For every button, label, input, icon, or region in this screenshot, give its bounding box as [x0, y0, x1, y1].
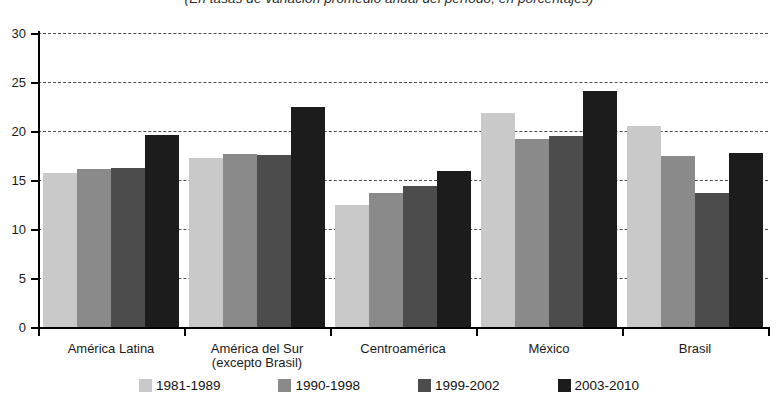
x-tick-mark-1: [184, 327, 186, 336]
bar-1-1: [223, 154, 257, 327]
bar-0-3: [145, 135, 179, 327]
x-tick-mark-5: [768, 327, 770, 336]
y-tick-mark-25: [31, 82, 40, 84]
y-axis-label-0: 0: [0, 320, 26, 335]
legend-item-3[interactable]: 2003-2010: [558, 378, 640, 393]
plot-area: [38, 33, 768, 327]
x-tick-mark-4: [622, 327, 624, 336]
legend-item-1[interactable]: 1990-1998: [278, 378, 360, 393]
category-label-line: América Latina: [68, 341, 155, 356]
category-label-2: Centroamérica: [360, 342, 445, 356]
legend-label: 1981-1989: [156, 378, 221, 393]
legend-label: 1990-1998: [295, 378, 360, 393]
y-axis-label-15: 15: [0, 173, 26, 188]
y-axis-label-25: 25: [0, 75, 26, 90]
y-axis-label-30: 30: [0, 26, 26, 41]
bar-1-2: [257, 155, 291, 327]
bar-3-3: [583, 91, 617, 327]
legend-label: 1999-2002: [435, 378, 500, 393]
legend-item-0[interactable]: 1981-1989: [139, 378, 221, 393]
bar-4-2: [695, 193, 729, 327]
y-axis-label-5: 5: [0, 271, 26, 286]
legend-item-2[interactable]: 1999-2002: [418, 378, 500, 393]
bar-3-2: [549, 136, 583, 327]
legend-label: 2003-2010: [575, 378, 640, 393]
bar-0-0: [43, 173, 77, 327]
y-tick-mark-20: [31, 131, 40, 133]
category-label-3: México: [528, 342, 569, 356]
legend-swatch-icon: [139, 379, 152, 392]
y-tick-mark-5: [31, 278, 40, 280]
bar-2-2: [403, 186, 437, 327]
bar-4-0: [627, 126, 661, 327]
x-tick-mark-0: [38, 327, 40, 336]
y-tick-mark-15: [31, 180, 40, 182]
bar-2-0: [335, 205, 369, 327]
bar-1-3: [291, 107, 325, 327]
bar-2-3: [437, 171, 471, 327]
legend-swatch-icon: [418, 379, 431, 392]
bars-layer: [38, 33, 768, 327]
chart-subtitle: (En tasas de variación promedio anual de…: [0, 0, 778, 6]
x-tick-mark-3: [476, 327, 478, 336]
category-label-line: Centroamérica: [360, 341, 445, 356]
chart-legend: 1981-19891990-19981999-20022003-2010: [0, 378, 778, 393]
y-tick-mark-30: [31, 33, 40, 35]
category-label-0: América Latina: [68, 342, 155, 356]
y-axis-label-10: 10: [0, 222, 26, 237]
legend-swatch-icon: [558, 379, 571, 392]
bar-chart-figure: (En tasas de variación promedio anual de…: [0, 0, 778, 414]
x-axis-line: [38, 327, 769, 329]
category-label-4: Brasil: [679, 342, 712, 356]
category-label-line: América del Sur: [211, 341, 303, 356]
bar-3-0: [481, 113, 515, 327]
bar-4-1: [661, 156, 695, 327]
y-tick-mark-10: [31, 229, 40, 231]
category-label-1: América del Sur(excepto Brasil): [211, 342, 303, 370]
bar-4-3: [729, 153, 763, 327]
category-label-line: Brasil: [679, 341, 712, 356]
category-label-line: (excepto Brasil): [211, 356, 303, 370]
category-label-line: México: [528, 341, 569, 356]
bar-0-1: [77, 169, 111, 327]
y-axis-label-20: 20: [0, 124, 26, 139]
bar-3-1: [515, 139, 549, 327]
bar-1-0: [189, 158, 223, 327]
bar-0-2: [111, 168, 145, 327]
bar-2-1: [369, 193, 403, 327]
x-tick-mark-2: [330, 327, 332, 336]
legend-swatch-icon: [278, 379, 291, 392]
